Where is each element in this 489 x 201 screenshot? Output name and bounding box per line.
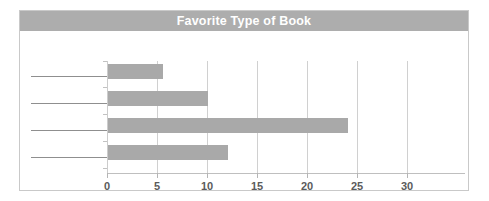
x-tick-label-15: 15	[242, 181, 272, 192]
x-axis-tick	[307, 173, 308, 178]
x-axis-tick	[207, 173, 208, 178]
category-answer-line[interactable]	[31, 157, 109, 158]
bar-category-2[interactable]	[108, 91, 208, 106]
category-answer-line[interactable]	[31, 103, 109, 104]
x-tick-label-5: 5	[142, 181, 172, 192]
bar-category-4[interactable]	[108, 145, 228, 160]
x-axis-tick	[257, 173, 258, 178]
x-axis-line	[107, 173, 465, 174]
plot-area: 0 5 10 15 20 25 30	[107, 61, 447, 173]
x-tick-label-10: 10	[192, 181, 222, 192]
y-axis-tick	[103, 141, 107, 142]
chart-card: Favorite Type of Book	[19, 10, 469, 191]
bar-category-1[interactable]	[108, 64, 163, 79]
gridline-30	[407, 61, 408, 173]
x-tick-label-25: 25	[342, 181, 372, 192]
chart-title-band: Favorite Type of Book	[20, 11, 468, 31]
x-axis-tick	[107, 173, 108, 178]
x-axis-tick	[407, 173, 408, 178]
y-axis-tick	[103, 114, 107, 115]
x-axis-tick	[357, 173, 358, 178]
x-tick-label-0: 0	[92, 181, 122, 192]
y-axis-tick	[103, 87, 107, 88]
y-axis-tick	[103, 168, 107, 169]
page-title: Favorite Type of Book	[177, 15, 312, 28]
bar-category-3[interactable]	[108, 118, 348, 133]
x-axis-tick	[157, 173, 158, 178]
x-tick-label-30: 30	[392, 181, 422, 192]
category-answer-line[interactable]	[31, 130, 109, 131]
category-answer-line[interactable]	[31, 76, 109, 77]
gridline-15	[257, 61, 258, 173]
x-tick-label-20: 20	[292, 181, 322, 192]
gridline-25	[357, 61, 358, 173]
chart-plot-wrapper: 0 5 10 15 20 25 30	[20, 31, 468, 190]
gridline-20	[307, 61, 308, 173]
y-axis-tick	[103, 61, 107, 62]
